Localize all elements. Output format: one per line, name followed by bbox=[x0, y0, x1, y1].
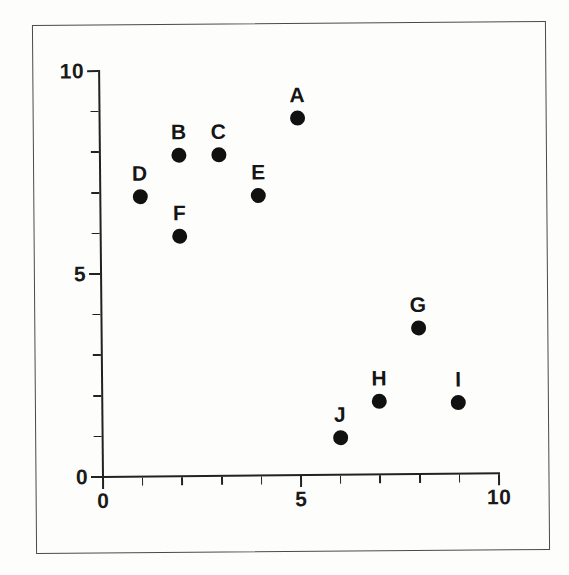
data-point-I[interactable] bbox=[451, 395, 466, 410]
y-axis-ticks bbox=[0, 0, 564, 1]
data-point-label-B: B bbox=[171, 120, 187, 144]
x-tick-10 bbox=[498, 474, 500, 485]
data-point-A[interactable] bbox=[290, 110, 305, 125]
data-point-label-A: A bbox=[289, 83, 305, 107]
data-point-J[interactable] bbox=[333, 431, 348, 446]
data-point-G[interactable] bbox=[411, 320, 426, 335]
y-tick-6 bbox=[92, 233, 100, 235]
data-point-B[interactable] bbox=[172, 148, 187, 163]
y-tick-3 bbox=[93, 354, 101, 356]
data-point-label-C: C bbox=[211, 120, 227, 144]
data-point-label-I: I bbox=[455, 367, 462, 391]
x-tick-2 bbox=[181, 477, 183, 485]
y-axis-tick-labels: 0510 bbox=[0, 0, 564, 1]
data-point-label-H: H bbox=[371, 366, 387, 390]
x-tick-1 bbox=[142, 478, 144, 486]
x-axis-ticks bbox=[0, 0, 564, 1]
y-tick-7 bbox=[91, 192, 99, 194]
data-point-label-F: F bbox=[173, 202, 187, 226]
y-tick-9 bbox=[90, 111, 98, 113]
x-tick-4 bbox=[261, 476, 263, 484]
x-tick-0 bbox=[102, 478, 104, 489]
x-tick-7 bbox=[379, 475, 381, 483]
x-tick-8 bbox=[419, 475, 421, 483]
data-point-label-E: E bbox=[251, 160, 266, 184]
x-tick-label-10: 10 bbox=[487, 485, 512, 509]
data-points-layer: ABCDEFGHIJ bbox=[0, 0, 564, 1]
x-tick-3 bbox=[221, 477, 223, 485]
data-point-label-D: D bbox=[132, 161, 148, 185]
y-tick-0 bbox=[91, 476, 102, 478]
y-tick-2 bbox=[93, 395, 101, 397]
data-point-C[interactable] bbox=[211, 148, 226, 163]
x-tick-label-0: 0 bbox=[97, 489, 109, 513]
y-tick-8 bbox=[91, 151, 99, 153]
y-tick-4 bbox=[92, 314, 100, 316]
page-root: 0510 0510 ABCDEFGHIJ bbox=[0, 0, 569, 575]
y-tick-label-0: 0 bbox=[76, 465, 88, 489]
x-tick-9 bbox=[459, 475, 461, 483]
y-tick-label-10: 10 bbox=[60, 59, 85, 83]
x-axis-tick-labels: 0510 bbox=[0, 0, 564, 1]
data-point-label-J: J bbox=[334, 403, 346, 427]
x-tick-label-5: 5 bbox=[295, 487, 307, 511]
y-tick-10 bbox=[87, 70, 98, 72]
y-tick-1 bbox=[94, 436, 102, 438]
scatter-plot: 0510 0510 ABCDEFGHIJ bbox=[0, 0, 569, 575]
data-point-F[interactable] bbox=[172, 229, 187, 244]
data-point-D[interactable] bbox=[132, 189, 147, 204]
y-tick-5 bbox=[89, 273, 100, 275]
data-point-E[interactable] bbox=[251, 188, 266, 203]
y-tick-label-5: 5 bbox=[74, 262, 86, 286]
data-point-label-G: G bbox=[410, 293, 427, 317]
data-point-H[interactable] bbox=[372, 394, 387, 409]
x-tick-6 bbox=[340, 476, 342, 484]
x-tick-5 bbox=[300, 476, 302, 487]
